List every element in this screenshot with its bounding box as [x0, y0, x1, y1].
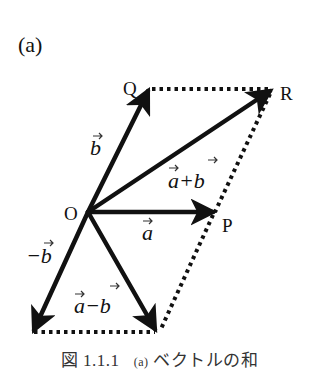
vector-label-a-plus-b: a+b: [168, 168, 205, 193]
label-a-minus-b: a−b: [74, 283, 119, 318]
label-a: a: [142, 218, 153, 245]
label-neg-b: −b: [26, 240, 53, 268]
label-a-plus-b: a+b: [168, 157, 217, 193]
caption-figure-number: 図 1.1.1: [61, 351, 120, 370]
panel-label: (a): [18, 32, 42, 57]
vector-sum-diagram: (a) O P Q R b a+b a −b a−b: [0, 0, 319, 376]
arrow-accent-icon: [110, 283, 119, 289]
point-label-q: Q: [123, 78, 137, 99]
vector-label-neg-b: −b: [26, 243, 52, 268]
label-b: b: [90, 133, 102, 160]
vector-label-a-minus-b: a−b: [74, 293, 111, 318]
point-label-p: P: [222, 215, 233, 236]
arrow-accent-icon: [208, 157, 217, 163]
point-label-r: R: [280, 83, 293, 104]
caption-sub-label: (a): [134, 355, 149, 369]
vector-label-a: a: [142, 220, 153, 245]
vector-a-plus-b: [88, 91, 270, 212]
caption-title: ベクトルの和: [153, 351, 258, 370]
point-label-o: O: [64, 203, 78, 224]
figure-caption: 図 1.1.1 (a) ベクトルの和: [0, 346, 319, 371]
dotted-line-p-amb: [160, 215, 213, 331]
